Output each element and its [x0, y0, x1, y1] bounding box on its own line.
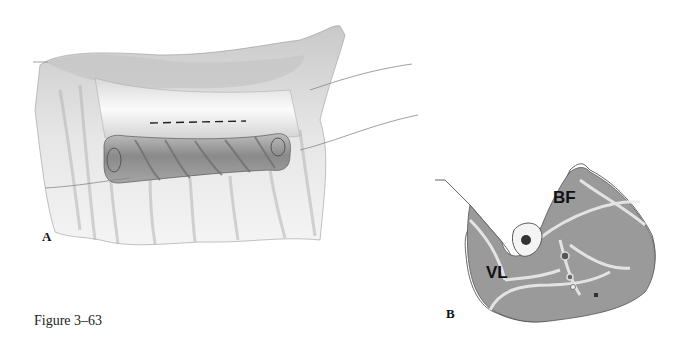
panel-label-a: A — [42, 229, 51, 245]
panel-b-cross-section: BF VL — [430, 160, 691, 348]
label-vl: VL — [486, 263, 508, 282]
panel-label-b: B — [446, 306, 455, 322]
thigh-cross-section-drawing: BF VL — [430, 160, 691, 348]
figure-caption: Figure 3–63 — [34, 313, 102, 329]
surgical-flap-drawing — [0, 0, 420, 260]
marrow — [521, 235, 531, 245]
label-bf: BF — [553, 188, 576, 207]
panel-a-illustration — [0, 0, 420, 260]
